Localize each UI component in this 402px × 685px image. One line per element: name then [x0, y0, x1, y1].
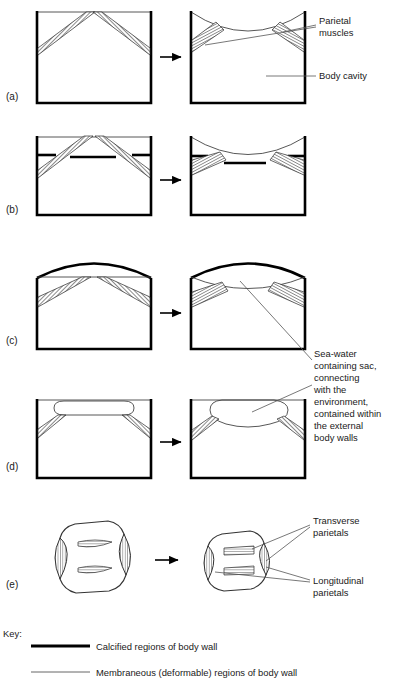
callout-seawater-sac-line-5: contained within [314, 408, 381, 419]
callout-seawater-sac-line-2: connecting [314, 372, 359, 383]
panel-a-letter: (a) [6, 91, 18, 102]
diagram-svg: (a) Parietal muscles Body c [0, 0, 402, 685]
panel-e-letter: (e) [6, 579, 18, 590]
callout-parietal-muscles-line1: Parietal [319, 15, 351, 26]
callout-seawater-sac-line-3: with the [313, 384, 346, 395]
panel-b-letter: (b) [6, 204, 18, 215]
transverse-parietals-band-upper [224, 546, 254, 555]
key-title: Key: [3, 628, 22, 639]
callout-parietal-muscles-line2: muscles [319, 27, 354, 38]
callout-longitudinal-parietals-line1: Longitudinal [313, 575, 364, 586]
callout-seawater-sac-line-7: body walls [314, 432, 358, 443]
callout-transverse-parietals-line2: parietals [313, 527, 349, 538]
callout-longitudinal-parietals-line2: parietals [313, 587, 349, 598]
callout-seawater-sac-line-4: environment, [314, 396, 368, 407]
callout-seawater-sac-line-0: Sea-water [314, 348, 357, 359]
callout-seawater-sac-line-1: containing sac, [314, 360, 377, 371]
panel-d-letter: (d) [6, 461, 18, 472]
callout-transverse-parietals-line1: Transverse [313, 515, 360, 526]
callout-body-cavity: Body cavity [319, 70, 367, 81]
callout-seawater-sac-line-6: the external [314, 420, 363, 431]
key-label-calcified: Calcified regions of body wall [96, 641, 217, 652]
key-label-membraneous: Membraneous (deformable) regions of body… [96, 667, 297, 678]
figure-container: (a) Parietal muscles Body c [0, 0, 402, 685]
panel-c-letter: (c) [6, 335, 18, 346]
